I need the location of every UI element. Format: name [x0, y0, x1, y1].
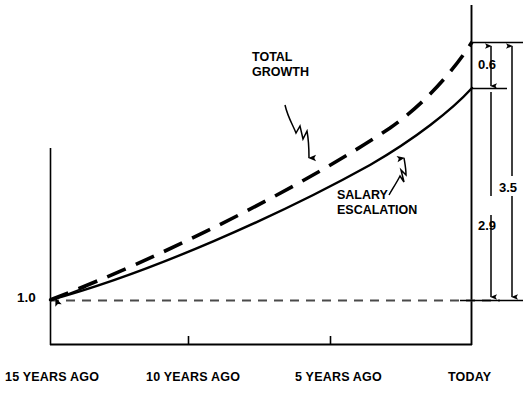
total-growth-leader-line — [285, 105, 309, 158]
dimension-label-0.6: 0.6 — [478, 57, 496, 72]
x-axis-label-15-years-ago: 15 YEARS AGO — [5, 370, 99, 384]
x-axis-label-today: TODAY — [448, 370, 491, 384]
growth-chart: 1.0 TOTAL GROWTH SALARY ESCALATION 0.6 2… — [0, 0, 531, 396]
baseline-value-label: 1.0 — [17, 290, 36, 305]
origin-pointer-arrow — [55, 287, 86, 299]
x-axis-label-5-years-ago: 5 YEARS AGO — [295, 370, 382, 384]
total-growth-annotation: TOTAL GROWTH — [252, 50, 309, 80]
salary-escalation-annotation: SALARY ESCALATION — [337, 188, 417, 218]
x-axis-label-10-years-ago: 10 YEARS AGO — [146, 370, 240, 384]
salary-escalation-annotation-line1: SALARY — [337, 188, 388, 202]
salary-escalation-annotation-line2: ESCALATION — [337, 203, 417, 217]
dimension-label-3.5: 3.5 — [499, 180, 517, 195]
series-total-growth — [50, 42, 472, 300]
total-growth-annotation-line2: GROWTH — [252, 65, 309, 79]
dimension-label-2.9: 2.9 — [478, 218, 496, 233]
total-growth-annotation-line1: TOTAL — [252, 50, 293, 64]
